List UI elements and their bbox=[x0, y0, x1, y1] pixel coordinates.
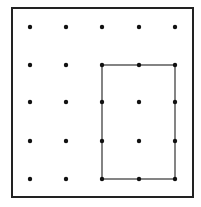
grid-dot bbox=[137, 177, 141, 181]
grid-dot bbox=[28, 25, 32, 29]
grid-dot bbox=[64, 100, 68, 104]
grid-dot bbox=[100, 100, 104, 104]
grid-dot bbox=[137, 139, 141, 143]
grid-dot bbox=[173, 177, 177, 181]
grid-dot bbox=[28, 100, 32, 104]
grid-dot bbox=[28, 177, 32, 181]
grid-dot bbox=[64, 177, 68, 181]
grid-dot bbox=[100, 139, 104, 143]
grid-dot bbox=[64, 63, 68, 67]
grid-dot bbox=[28, 63, 32, 67]
grid-dot bbox=[100, 177, 104, 181]
geoboard-diagram bbox=[0, 0, 201, 207]
grid-dot bbox=[100, 25, 104, 29]
rectangle-outline bbox=[102, 65, 175, 179]
grid-dot bbox=[137, 63, 141, 67]
grid-dot bbox=[173, 139, 177, 143]
grid-dot bbox=[28, 139, 32, 143]
grid-dot bbox=[100, 63, 104, 67]
grid-dot bbox=[137, 100, 141, 104]
grid-dot bbox=[173, 100, 177, 104]
grid-dot bbox=[173, 25, 177, 29]
grid-dot bbox=[137, 25, 141, 29]
grid-dot bbox=[64, 139, 68, 143]
grid-dot bbox=[173, 63, 177, 67]
grid-dot bbox=[64, 25, 68, 29]
drawn-rectangle bbox=[102, 65, 175, 179]
